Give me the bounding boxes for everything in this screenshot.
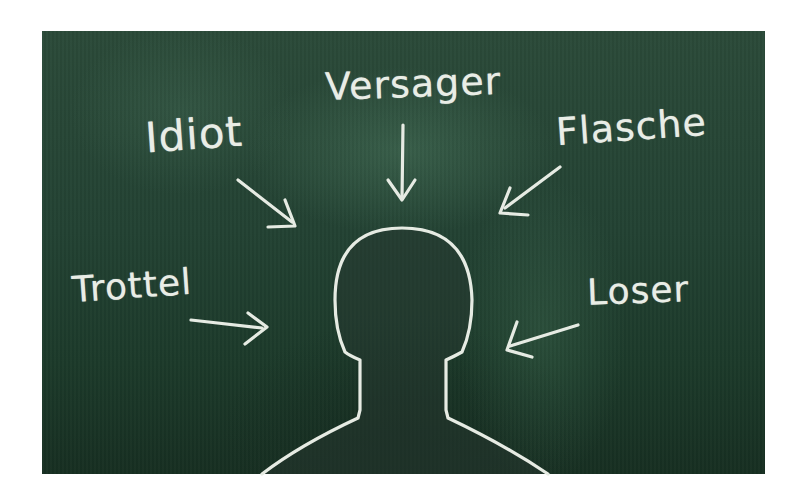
arrow-left-icon [507, 322, 578, 357]
word-loser: Loser [586, 268, 690, 313]
head-silhouette-icon [262, 228, 548, 474]
arrow-down-right-icon [238, 180, 295, 227]
arrow-down-icon [388, 125, 415, 200]
arrow-down-left-icon [500, 167, 560, 215]
word-versager: Versager [324, 59, 502, 109]
word-trottel: Trottel [71, 261, 194, 310]
word-idiot: Idiot [143, 107, 244, 163]
arrow-right-icon [191, 313, 267, 344]
